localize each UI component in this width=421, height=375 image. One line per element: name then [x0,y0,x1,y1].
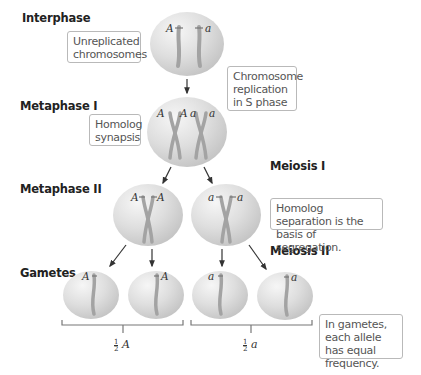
meiosis-diagram: A a A A a a A A a a [0,0,421,375]
allele-label: A [156,107,165,119]
allele-label: A [81,270,90,282]
cell-metaphase-2-left: A A [113,184,183,246]
bracket-right [191,320,312,333]
allele-label: A [160,270,169,282]
gamete-3: a [192,270,248,319]
allele-label: A [156,191,165,203]
bracket-left [62,320,183,333]
allele-label: a [291,271,297,283]
cell-interphase: A a [150,12,224,76]
gamete-4: a [257,271,313,320]
allele-label: a [237,191,243,203]
gamete-2: A [128,270,184,319]
allele-label: A [165,22,174,34]
allele-label: a [205,22,211,34]
cell-metaphase-1: A A a a [147,97,227,167]
allele-label: a [190,107,196,119]
allele-label: a [209,107,215,119]
allele-label: A [130,191,139,203]
fraction-half-a: 1 2 a [243,338,258,352]
allele-label: a [208,270,214,282]
fraction-half-A: 1 2 A [114,338,130,352]
allele-label: A [179,107,188,119]
gamete-1: A [63,270,119,319]
allele-label: a [208,191,214,203]
cell-metaphase-2-right: a a [191,184,261,246]
